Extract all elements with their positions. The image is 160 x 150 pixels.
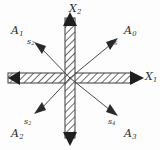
x2-axis-arrow-bottom — [63, 132, 77, 146]
region-a2-label-sub: 2 — [19, 133, 23, 141]
ray-s2-lower-left-label: s2 — [24, 118, 31, 126]
ray-s4-label: s4 — [108, 118, 115, 126]
region-a1-label: A1 — [11, 25, 23, 36]
ray-s2-lower-left-label-sub: 2 — [28, 120, 31, 126]
region-a1-label-sub: 1 — [19, 30, 23, 38]
x2-axis-label-sub: 2 — [77, 8, 81, 16]
ray-s6-label-sub: 6 — [114, 40, 117, 46]
region-a0-label-sub: 0 — [132, 30, 136, 38]
x1-axis-label: X1 — [145, 71, 157, 82]
ray-s4-label-sub: 4 — [112, 120, 115, 126]
ray-s2-upper-left-label-sub: 2 — [31, 40, 34, 46]
region-a0-label: A0 — [124, 25, 136, 36]
region-a0-label-base: A — [124, 24, 132, 37]
ray-s4-line — [70, 78, 118, 116]
signal-space-diagram: X1 X2 s6 s2 s2 s4 A1 A0 A2 A3 — [0, 0, 160, 150]
x2-axis-label-base: X — [69, 2, 77, 15]
region-a2-label-base: A — [11, 127, 19, 140]
region-a2-label: A2 — [11, 128, 23, 139]
x2-axis-band — [63, 12, 77, 146]
x2-axis-label: X2 — [69, 3, 81, 14]
region-a3-label: A3 — [124, 128, 136, 139]
x1-axis-label-base: X — [145, 70, 153, 83]
x1-axis-arrow-right — [130, 71, 144, 85]
region-a3-label-sub: 3 — [132, 133, 136, 141]
ray-s6-label: s6 — [110, 38, 117, 46]
region-a1-label-base: A — [11, 24, 19, 37]
x1-axis-label-sub: 1 — [153, 76, 157, 84]
ray-s2-upper-left-label: s2 — [27, 38, 34, 46]
region-a3-label-base: A — [124, 127, 132, 140]
